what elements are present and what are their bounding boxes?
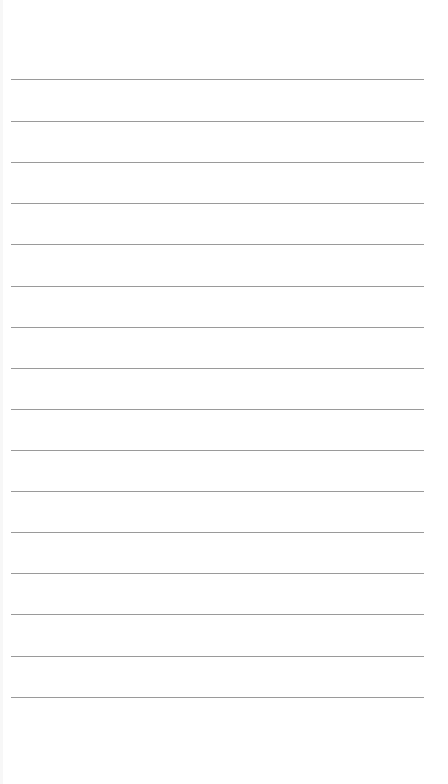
ruled-line bbox=[11, 656, 424, 657]
ruled-line bbox=[11, 409, 424, 410]
ruled-line bbox=[11, 450, 424, 451]
note-line-text[interactable] bbox=[14, 676, 419, 696]
note-line-text[interactable] bbox=[14, 388, 419, 408]
ruled-line bbox=[11, 532, 424, 533]
lined-note-page[interactable] bbox=[0, 0, 448, 784]
note-line-text[interactable] bbox=[14, 593, 419, 613]
ruled-line bbox=[11, 244, 424, 245]
note-line-text[interactable] bbox=[14, 552, 419, 572]
note-line-text[interactable] bbox=[14, 58, 419, 78]
note-line-text[interactable] bbox=[14, 470, 419, 490]
ruled-line bbox=[11, 491, 424, 492]
ruled-line bbox=[11, 573, 424, 574]
note-line-text[interactable] bbox=[14, 265, 419, 285]
ruled-line bbox=[11, 203, 424, 204]
ruled-line bbox=[11, 327, 424, 328]
note-line-text[interactable] bbox=[14, 347, 419, 367]
ruled-line bbox=[11, 368, 424, 369]
note-line-text[interactable] bbox=[14, 306, 419, 326]
note-line-text[interactable] bbox=[14, 429, 419, 449]
note-line-text[interactable] bbox=[14, 141, 419, 161]
ruled-line bbox=[11, 286, 424, 287]
note-line-text[interactable] bbox=[14, 100, 419, 120]
ruled-line bbox=[11, 614, 424, 615]
note-line-text[interactable] bbox=[14, 182, 419, 202]
note-line-text[interactable] bbox=[14, 511, 419, 531]
ruled-line bbox=[11, 121, 424, 122]
ruled-line bbox=[11, 79, 424, 80]
ruled-line bbox=[11, 697, 424, 698]
ruled-line bbox=[11, 162, 424, 163]
note-line-text[interactable] bbox=[14, 223, 419, 243]
note-line-text[interactable] bbox=[14, 635, 419, 655]
